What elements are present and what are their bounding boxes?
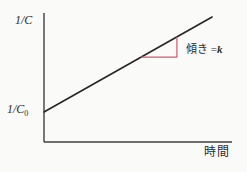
slope-annotation-variable: k [217,43,223,55]
slope-annotation: 傾き =k [186,44,222,55]
x-axis-label: 時間 [204,146,230,158]
y-intercept-base: 1/C [7,102,24,116]
kinetics-line-plot: 1/C 1/C0 傾き =k 時間 [0,0,247,172]
y-intercept-label: 1/C0 [7,103,28,118]
y-axis-label: 1/C [15,14,32,26]
y-intercept-subscript: 0 [24,109,28,118]
data-line [44,17,212,112]
slope-annotation-prefix: 傾き = [186,43,217,55]
